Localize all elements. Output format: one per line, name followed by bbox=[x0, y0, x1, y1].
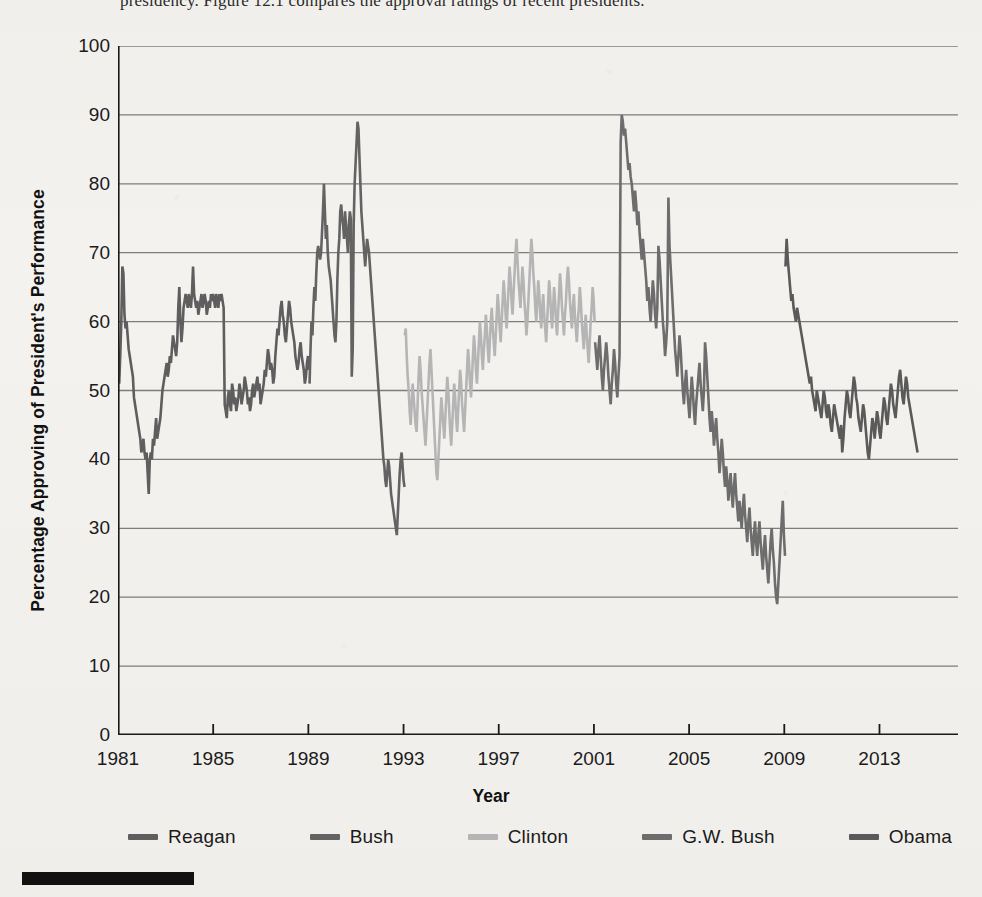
legend-label: Reagan bbox=[168, 826, 236, 848]
y-tick-label: 0 bbox=[60, 724, 110, 746]
legend-label: Obama bbox=[889, 826, 952, 848]
series-line-g-w-bush bbox=[595, 115, 785, 604]
legend-label: G.W. Bush bbox=[682, 826, 775, 848]
page-footer-marker bbox=[22, 872, 194, 885]
x-tick-label: 1985 bbox=[192, 748, 234, 770]
legend-swatch-icon bbox=[310, 834, 340, 840]
legend-item: Reagan bbox=[128, 826, 236, 848]
x-tick-label: 1989 bbox=[287, 748, 329, 770]
legend-swatch-icon bbox=[128, 834, 158, 840]
x-tick-label: 1997 bbox=[478, 748, 520, 770]
series-lines bbox=[119, 115, 917, 604]
y-tick-label: 20 bbox=[60, 586, 110, 608]
y-tick-label: 50 bbox=[60, 380, 110, 402]
x-axis-ticks bbox=[118, 724, 879, 735]
y-tick-label: 80 bbox=[60, 173, 110, 195]
y-tick-label: 10 bbox=[60, 655, 110, 677]
series-line-clinton bbox=[405, 239, 595, 480]
legend-item: G.W. Bush bbox=[642, 826, 775, 848]
plot-area bbox=[118, 46, 958, 735]
y-tick-label: 70 bbox=[60, 242, 110, 264]
legend-item: Clinton bbox=[468, 826, 569, 848]
chart-legend: ReaganBushClintonG.W. BushObama bbox=[110, 822, 970, 852]
legend-swatch-icon bbox=[642, 834, 672, 840]
legend-swatch-icon bbox=[468, 834, 498, 840]
legend-item: Bush bbox=[310, 826, 394, 848]
legend-label: Clinton bbox=[508, 826, 569, 848]
y-axis-tick-labels: 0102030405060708090100 bbox=[52, 46, 110, 735]
legend-swatch-icon bbox=[849, 834, 879, 840]
approval-rating-chart: Percentage Approving of President's Perf… bbox=[0, 0, 982, 790]
y-tick-label: 90 bbox=[60, 104, 110, 126]
x-tick-label: 2001 bbox=[573, 748, 615, 770]
y-tick-label: 100 bbox=[60, 35, 110, 57]
x-tick-label: 2009 bbox=[763, 748, 805, 770]
y-tick-label: 30 bbox=[60, 517, 110, 539]
figure-page: presidency. Figure 12.1 compares the app… bbox=[0, 0, 982, 897]
legend-item: Obama bbox=[849, 826, 952, 848]
x-tick-label: 2005 bbox=[668, 748, 710, 770]
x-axis-tick-labels: 198119851989199319972001200520092013 bbox=[118, 748, 958, 778]
chart-svg bbox=[118, 46, 958, 735]
x-tick-label: 2013 bbox=[858, 748, 900, 770]
gridlines bbox=[118, 46, 958, 666]
y-tick-label: 60 bbox=[60, 311, 110, 333]
x-tick-label: 1981 bbox=[97, 748, 139, 770]
legend-label: Bush bbox=[350, 826, 394, 848]
series-line-obama bbox=[785, 239, 917, 459]
x-tick-label: 1993 bbox=[382, 748, 424, 770]
x-axis-title: Year bbox=[0, 786, 982, 807]
y-tick-label: 40 bbox=[60, 448, 110, 470]
y-axis-title: Percentage Approving of President's Perf… bbox=[28, 71, 49, 731]
